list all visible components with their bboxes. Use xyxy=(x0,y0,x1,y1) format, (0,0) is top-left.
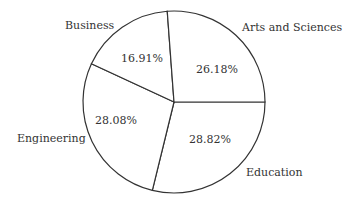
pct-education: 28.82% xyxy=(189,133,231,146)
label-business: Business xyxy=(65,19,115,32)
pie-slices xyxy=(83,11,265,193)
label-engineering: Engineering xyxy=(17,132,86,145)
pct-business: 16.91% xyxy=(121,52,163,65)
label-education: Education xyxy=(246,166,303,179)
pct-arts-and-sciences: 26.18% xyxy=(196,63,238,76)
pie-chart: Arts and Sciences Business Engineering E… xyxy=(0,0,348,197)
pct-engineering: 28.08% xyxy=(95,114,137,127)
label-arts-and-sciences: Arts and Sciences xyxy=(241,21,342,34)
